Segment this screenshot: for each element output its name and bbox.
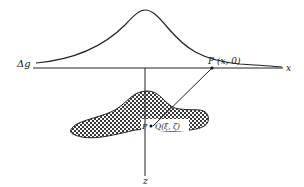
observation-point <box>210 66 213 69</box>
source-point <box>150 125 153 128</box>
gravity-diagram: Δg x z P (x, 0) P Q(ξ, ζ) <box>0 0 304 187</box>
z-axis-label: z <box>142 176 148 186</box>
body-point-label: P <box>141 122 148 131</box>
anomaly-curve <box>36 10 282 67</box>
source-point-label: Q(ξ, ζ) <box>155 122 180 131</box>
observation-point-label: P (x, 0) <box>207 56 241 66</box>
x-axis-label: x <box>286 63 291 73</box>
anomaly-label: Δg <box>16 58 31 69</box>
